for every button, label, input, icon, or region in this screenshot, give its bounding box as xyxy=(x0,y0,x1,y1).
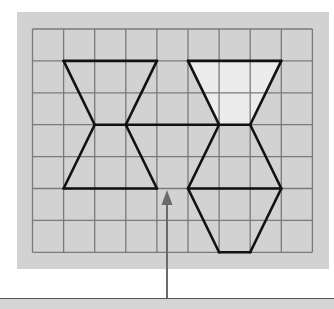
figure xyxy=(0,0,334,309)
grid-diagram xyxy=(0,0,334,309)
bottom-band xyxy=(0,299,334,309)
